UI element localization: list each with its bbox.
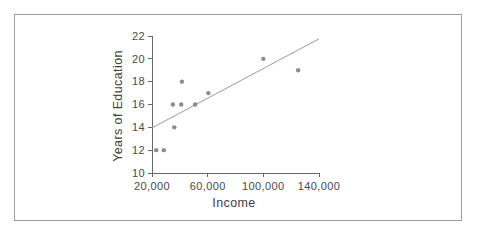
x-tick-label: 140,000 <box>298 180 341 192</box>
data-point <box>206 91 210 95</box>
regression-line <box>152 39 319 128</box>
x-tick-label: 60,000 <box>190 180 226 192</box>
plot-area: 20,00060,000100,000140,00010121416182022 <box>132 30 340 192</box>
data-point <box>261 57 265 61</box>
x-tick-label: 20,000 <box>134 180 170 192</box>
y-tick-label: 12 <box>132 144 145 156</box>
y-tick-label: 16 <box>132 98 145 110</box>
y-tick-label: 10 <box>132 167 145 179</box>
data-point <box>171 102 175 106</box>
data-point <box>154 148 158 152</box>
x-tick-label: 100,000 <box>242 180 285 192</box>
scatter-plot: 20,00060,000100,000140,00010121416182022… <box>0 0 477 236</box>
data-point <box>193 102 197 106</box>
data-point <box>179 102 183 106</box>
data-point <box>296 68 300 72</box>
data-point <box>172 125 176 129</box>
data-point <box>162 148 166 152</box>
y-axis-title: Years of Education <box>111 50 125 162</box>
figure: 20,00060,000100,000140,00010121416182022… <box>0 0 477 236</box>
data-point <box>180 79 184 83</box>
y-tick-label: 20 <box>132 53 145 65</box>
y-tick-label: 14 <box>132 121 145 133</box>
y-tick-label: 18 <box>132 75 145 87</box>
y-tick-label: 22 <box>132 30 145 42</box>
x-axis-title: Income <box>212 196 255 210</box>
